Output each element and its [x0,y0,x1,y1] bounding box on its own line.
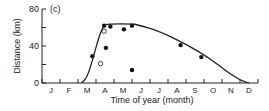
plot-area [82,23,249,83]
filled-data-point [104,46,108,50]
x-tick-label: J [139,86,143,95]
x-tick-label: A [174,86,180,95]
filled-data-point [178,43,182,47]
axes: 04080JFMAMJJASOND [29,4,258,95]
x-tick-label: N [228,86,234,95]
x-tick-label: O [210,86,216,95]
x-tick-label: J [157,86,161,95]
x-tick-label: D [246,86,252,95]
filled-data-point [130,68,134,72]
filled-data-point [199,55,203,59]
x-tick-label: J [49,86,53,95]
x-tick-label: M [84,86,91,95]
filled-data-point [108,24,112,28]
fitted-curve [82,24,249,83]
x-tick-label: F [67,86,72,95]
filled-data-point [122,27,126,31]
distance-chart: 04080JFMAMJJASOND Distance (km) Time of … [0,0,269,111]
x-tick-label: M [120,86,127,95]
open-data-point [98,61,102,65]
y-tick-label: 80 [29,4,39,14]
y-axis-label: Distance (km) [12,18,22,74]
y-tick-label: 40 [29,41,39,51]
panel-label: (c) [50,4,61,14]
y-tick-label: 0 [34,78,39,88]
x-tick-label: S [192,86,197,95]
x-tick-label: A [102,86,108,95]
x-axis-label: Time of year (month) [110,95,193,105]
